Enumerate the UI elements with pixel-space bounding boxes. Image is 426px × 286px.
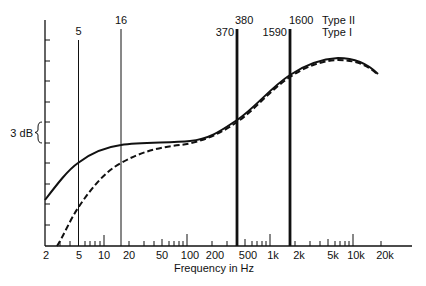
- x-tick-labels: 2 5 10 20 50 100 200 500 1k 2k 5k 10k 20…: [43, 249, 394, 261]
- x-axis-ticks: [60, 234, 381, 246]
- x-tick-label: 200: [206, 249, 224, 261]
- legend-type-i: Type I: [322, 26, 352, 38]
- x-tick-label: 50: [156, 249, 168, 261]
- x-tick-label: 5: [76, 249, 82, 261]
- x-tick-label: 2k: [293, 249, 305, 261]
- x-tick-label: 20: [123, 249, 135, 261]
- scale-bracket-icon: [35, 122, 42, 143]
- frequency-response-chart: 3 dB: [0, 0, 426, 286]
- marker-label-1600: 1600: [289, 14, 313, 26]
- marker-label-370: 370: [216, 26, 234, 38]
- x-tick-label: 10: [98, 249, 110, 261]
- x-axis-title: Frequency in Hz: [174, 262, 254, 274]
- x-tick-label: 100: [181, 249, 199, 261]
- marker-label-16: 16: [115, 14, 127, 26]
- scale-bracket-label: 3 dB: [10, 127, 33, 139]
- x-tick-label: 1k: [267, 249, 279, 261]
- marker-label-380: 380: [235, 14, 253, 26]
- marker-label-5: 5: [75, 25, 81, 37]
- marker-label-1590: 1590: [263, 26, 287, 38]
- series-type-ii-curve: [45, 58, 378, 200]
- x-tick-label: 5k: [327, 249, 339, 261]
- x-tick-label: 20k: [376, 249, 394, 261]
- x-tick-label: 500: [239, 249, 257, 261]
- x-tick-label: 10k: [347, 249, 365, 261]
- legend-type-ii: Type II: [322, 14, 355, 26]
- x-tick-label: 2: [43, 249, 49, 261]
- series-type-i-curve: [57, 60, 378, 246]
